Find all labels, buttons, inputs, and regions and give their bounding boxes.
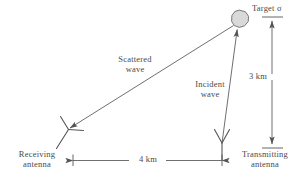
radar-geometry-figure: Target σ Scattered wave Incident wave 3 …: [0, 0, 307, 177]
receiving-antenna-label: Receiving antenna: [6, 149, 68, 169]
receiving-antenna-icon: [57, 117, 84, 149]
target-label: Target σ: [252, 3, 282, 13]
target-blob: [232, 10, 249, 27]
scattered-wave-arrow: [70, 26, 234, 129]
horizontal-distance-label: 4 km: [131, 154, 165, 164]
incident-wave-label: Incident wave: [182, 79, 238, 99]
vertical-dimension-3km: [262, 17, 283, 148]
transmitting-antenna-label: Transmitting antenna: [231, 149, 299, 169]
vertical-distance-label: 3 km: [240, 71, 276, 81]
scattered-wave-label: Scattered wave: [104, 54, 166, 74]
